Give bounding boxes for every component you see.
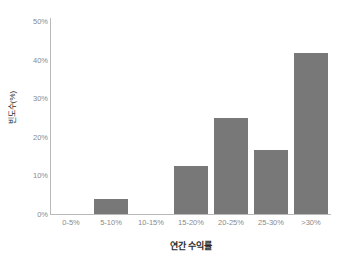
x-axis-tick-label: 0-5%: [62, 218, 80, 227]
bar: [214, 118, 249, 214]
x-axis-line: [50, 214, 331, 215]
y-axis-tick-label: 20%: [33, 132, 48, 141]
bar: [94, 199, 129, 214]
x-axis-title: 연간 수익률: [51, 239, 331, 252]
x-axis-tick-label: 20-25%: [218, 218, 244, 227]
y-axis-tick-label: 40%: [33, 55, 48, 64]
x-axis-tick-label: 10-15%: [138, 218, 164, 227]
y-axis-tick-label: 0%: [37, 210, 48, 219]
bar: [254, 150, 289, 214]
x-axis-tick-label: 15-20%: [178, 218, 204, 227]
bar-chart: 빈도수(%) 0%10%20%30%40%50% 0-5%5-10%10-15%…: [0, 0, 348, 261]
y-axis-tick-label: 10%: [33, 171, 48, 180]
x-axis-tick-label: 5-10%: [100, 218, 122, 227]
y-axis-tick-labels: 0%10%20%30%40%50%: [18, 0, 48, 261]
bar: [294, 53, 329, 214]
y-axis-tick-label: 30%: [33, 94, 48, 103]
plot-area: [51, 21, 331, 214]
x-axis-tick-labels: 0-5%5-10%10-15%15-20%20-25%25-30%>30%: [51, 218, 331, 232]
bar: [174, 166, 209, 214]
y-axis-tick-label: 50%: [33, 17, 48, 26]
x-axis-tick-label: >30%: [301, 218, 320, 227]
x-axis-tick-label: 25-30%: [258, 218, 284, 227]
y-axis-title-label: 빈도수(%): [7, 91, 18, 124]
